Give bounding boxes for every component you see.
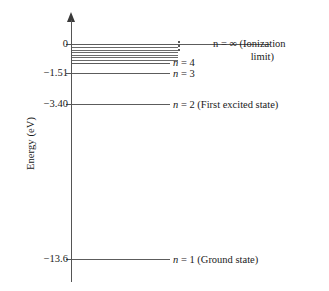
level-label-n2-eq: = <box>178 99 189 110</box>
level-line-n3 <box>72 73 170 74</box>
level-line-n10 <box>72 47 178 48</box>
tick-label-minus-13-6: −13.6 <box>20 254 68 265</box>
level-label-n3: n = 3 <box>173 68 195 81</box>
level-line-n6 <box>72 57 178 58</box>
level-label-n3-eq: = <box>178 68 189 79</box>
level-label-infinity-eq: = <box>218 38 229 49</box>
tick-label-1360-wrap: −13.6 <box>16 254 68 265</box>
level-label-infinity-paren1: (Ionization <box>237 38 286 49</box>
level-label-n1-suffix: (Ground state) <box>195 254 259 265</box>
level-line-n9 <box>72 50 178 51</box>
tick-label-0: 0 <box>20 39 68 50</box>
level-label-n3-value: 3 <box>189 68 194 79</box>
tick-label-340-wrap: −3.40 <box>16 99 68 110</box>
level-line-n1 <box>72 259 170 260</box>
level-label-n4-eq: = <box>178 57 189 68</box>
level-line-n4 <box>72 63 170 64</box>
tick-label-0-wrap: 0 <box>16 39 68 50</box>
level-line-n8 <box>72 52 178 53</box>
level-line-n2 <box>72 104 170 105</box>
tick-label-minus-3-40: −3.40 <box>20 99 68 110</box>
level-label-infinity-value: ∞ <box>229 38 237 49</box>
level-line-n5 <box>72 60 178 61</box>
level-label-n1: n = 1 (Ground state) <box>173 254 258 267</box>
level-label-n2-suffix: (First excited state) <box>195 99 279 110</box>
level-label-n4-value: 4 <box>189 57 194 68</box>
level-line-n7 <box>72 55 178 56</box>
energy-level-diagram: Energy (eV) 0 −1.51 −3.40 −13.6 n = ∞ (I… <box>0 0 329 291</box>
tick-label-151-wrap: −1.51 <box>16 68 68 79</box>
vertical-ellipsis-icon <box>178 41 181 53</box>
level-label-infinity: n = ∞ (Ionization limit) <box>213 37 286 63</box>
level-label-n1-eq: = <box>178 254 189 265</box>
level-label-n2: n = 2 (First excited state) <box>173 99 278 112</box>
tick-label-minus-1-51: −1.51 <box>20 68 68 79</box>
level-label-infinity-paren2: limit) <box>213 50 286 63</box>
